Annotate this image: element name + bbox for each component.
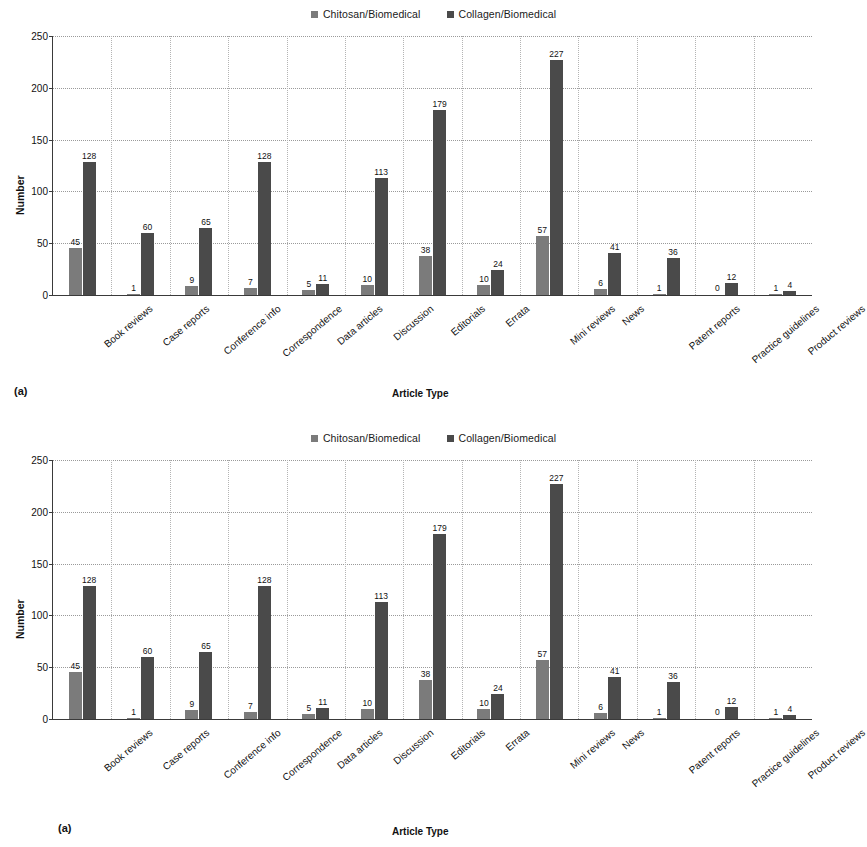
y-axis-title-a: Number: [14, 175, 26, 215]
bar: 179: [433, 534, 446, 719]
bar-value-label: 36: [668, 671, 677, 681]
bar-value-label: 57: [538, 649, 547, 659]
bar: 10: [361, 285, 374, 295]
bar-group: 10113: [345, 36, 403, 295]
bar-group: 012: [695, 460, 753, 719]
bar: 65: [199, 228, 212, 295]
y-axis-tick-label: 150: [31, 134, 48, 145]
y-axis-tick-label: 0: [42, 714, 48, 725]
bar-group: 641: [579, 460, 637, 719]
bar: 128: [83, 586, 96, 719]
bar-group: 160: [111, 460, 169, 719]
bar-group: 57227: [520, 460, 578, 719]
bar: 6: [594, 713, 607, 719]
legend-label-collagen-b: Collagen/Biomedical: [459, 432, 557, 444]
bar-value-label: 179: [432, 523, 446, 533]
x-axis-tick-label: Patent reports: [687, 727, 742, 776]
x-axis-tick-label: Errata: [503, 727, 531, 753]
bar: 128: [83, 162, 96, 295]
bar: 4: [783, 715, 796, 719]
bar-group: 641: [579, 36, 637, 295]
bar: 179: [433, 110, 446, 295]
bar-value-label: 7: [248, 701, 253, 711]
bar: 60: [141, 233, 154, 295]
legend-item-collagen: Collagen/Biomedical: [447, 8, 557, 20]
bar: 5: [302, 290, 315, 295]
bar: 41: [608, 253, 621, 295]
bar-value-label: 128: [257, 151, 271, 161]
x-axis-tick-label: Conference info: [221, 303, 282, 357]
bar: 128: [258, 586, 271, 719]
bar-value-label: 65: [201, 217, 210, 227]
x-axis-title-b: Article Type: [392, 826, 449, 837]
bar: 60: [141, 657, 154, 719]
bar-value-label: 24: [493, 259, 502, 269]
bar-value-label: 45: [70, 661, 79, 671]
bar-group: 14: [754, 36, 812, 295]
x-axis-tick-label: Practice guidelines: [750, 727, 821, 789]
bar: 57: [536, 660, 549, 719]
bar: 12: [725, 283, 738, 295]
bar-group: 45128: [53, 36, 111, 295]
bar-value-label: 10: [362, 698, 371, 708]
bar-value-label: 45: [70, 237, 79, 247]
bar-group: 14: [754, 460, 812, 719]
x-axis-tick-label: Editorials: [448, 727, 487, 762]
plot-area-a: 0501001502002504512816096571285111011338…: [52, 36, 812, 296]
bar: 41: [608, 677, 621, 719]
bar-groups: 4512816096571285111011338179102457227641…: [53, 460, 812, 719]
bar: 45: [69, 672, 82, 719]
bar: 227: [550, 484, 563, 719]
bar: 24: [491, 270, 504, 295]
bar-value-label: 9: [190, 275, 195, 285]
bar-group: 511: [287, 460, 345, 719]
x-axis-tick-label: Case reports: [160, 303, 211, 348]
bar-group: 1024: [462, 460, 520, 719]
x-axis-tick-label: News: [620, 727, 646, 752]
bar: 6: [594, 289, 607, 295]
bar: 38: [419, 680, 432, 719]
x-axis-tick-label: Correspondence: [281, 727, 345, 783]
bar-value-label: 10: [362, 274, 371, 284]
bar: 11: [316, 284, 329, 295]
bar-value-label: 11: [318, 697, 327, 707]
bar-group: 45128: [53, 460, 111, 719]
bar: 11: [316, 708, 329, 719]
bar-value-label: 12: [727, 696, 736, 706]
x-axis-tick-label: Book reviews: [102, 727, 155, 774]
y-axis-tick-label: 250: [31, 455, 48, 466]
bar-value-label: 113: [374, 167, 388, 177]
bar-value-label: 60: [143, 222, 152, 232]
bar-value-label: 41: [610, 242, 619, 252]
bar: 1: [127, 294, 140, 295]
bar: 5: [302, 714, 315, 719]
legend-label-chitosan-b: Chitosan/Biomedical: [323, 432, 421, 444]
bar: 9: [185, 286, 198, 295]
bar-value-label: 179: [432, 99, 446, 109]
y-axis-tick-label: 150: [31, 558, 48, 569]
x-axis-tick-label: Mini reviews: [568, 727, 617, 771]
bar-group: 511: [287, 36, 345, 295]
legend-swatch-collagen-b: [447, 435, 454, 442]
bar: 7: [244, 712, 257, 719]
y-axis-tick-label: 250: [31, 31, 48, 42]
bar: 57: [536, 236, 549, 295]
x-axis-tick-label: Mini reviews: [568, 303, 617, 347]
x-axis-tick-label: Discussion: [391, 727, 435, 767]
bar-value-label: 227: [549, 473, 563, 483]
bar: 1: [769, 294, 782, 295]
x-axis-tick-label: News: [620, 303, 646, 328]
bar-value-label: 128: [257, 575, 271, 585]
bar-value-label: 4: [788, 704, 793, 714]
bar: 10: [477, 709, 490, 719]
bar: 10: [361, 709, 374, 719]
bar-value-label: 38: [421, 669, 430, 679]
bar-value-label: 128: [82, 575, 96, 585]
bar-value-label: 0: [715, 707, 720, 717]
bar: 4: [783, 291, 796, 295]
y-axis-tick-label: 50: [37, 662, 48, 673]
figure-page: Chitosan/Biomedical Collagen/Biomedical …: [0, 0, 867, 847]
bar: 1: [127, 718, 140, 719]
bar-value-label: 10: [479, 698, 488, 708]
bar-groups: 4512816096571285111011338179102457227641…: [53, 36, 812, 295]
